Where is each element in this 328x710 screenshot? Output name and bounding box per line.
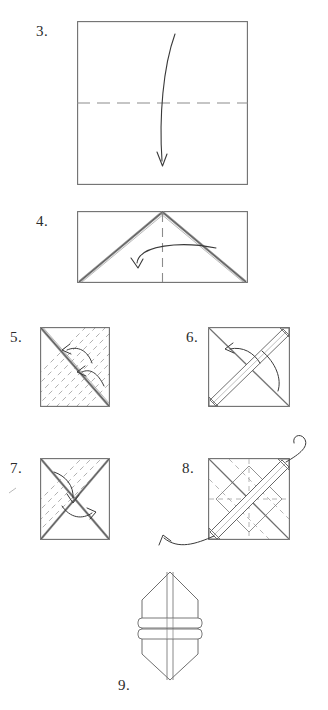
step-label-3: 3.: [36, 24, 48, 39]
step8-figure: [208, 458, 290, 540]
step4-figure: [77, 211, 248, 283]
step-label-8: 8.: [182, 461, 194, 476]
step-label-6: 6.: [186, 330, 198, 345]
step9-band-lower: [138, 629, 202, 639]
step8-pull-arrow-bottom-left: [164, 536, 214, 545]
step6-figure: [208, 327, 290, 407]
diagram-page: 3. 4. 5.: [0, 0, 328, 710]
step8-pull-arrow-bottom-left-head: [159, 535, 171, 545]
step-label-7: 7.: [10, 461, 22, 476]
step3-fold-arrow: [161, 34, 175, 161]
step7-figure: [40, 458, 110, 540]
step5-main-diagonal: [41, 328, 109, 406]
step3-figure: [77, 21, 248, 185]
step9-figure: [135, 570, 205, 682]
step-label-9: 9.: [118, 678, 130, 693]
step8-pull-arrow-top-right: [286, 436, 306, 462]
pencil-stray-mark: [9, 488, 16, 493]
step5-hatch-creases: [6, 327, 166, 407]
step9-band-upper: [138, 618, 202, 628]
step-label-4: 4.: [36, 214, 48, 229]
step7-stray-mark: [8, 487, 18, 495]
step5-figure: [40, 327, 110, 407]
step-label-5: 5.: [10, 330, 22, 345]
